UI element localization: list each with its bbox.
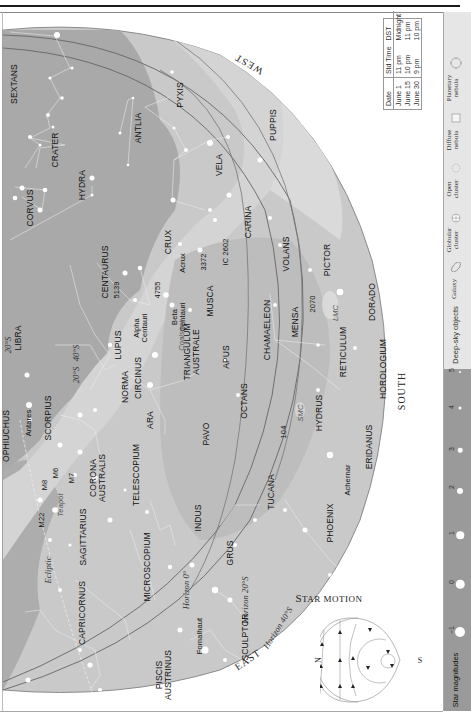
label-indus: INDUS xyxy=(194,505,203,532)
label-horologium: HOROLOGIUM xyxy=(379,339,388,399)
label-fomalhaut: Fomalhaut xyxy=(196,618,204,654)
label-pictor: PICTOR xyxy=(323,244,332,277)
label-ophiuchus: OPHIUCHUS xyxy=(2,410,11,462)
table-header-dst: DST xyxy=(384,11,394,43)
magnitude-dot-2 xyxy=(457,488,463,494)
legend-globular-cluster-label: Globularcluster xyxy=(446,228,461,253)
magnitude-dot-3 xyxy=(458,448,463,453)
label-mensa: MENSA xyxy=(291,307,300,338)
label-octans: OCTANS xyxy=(240,383,249,418)
magnitude-dot-0 xyxy=(456,580,465,589)
label-phoenix: PHOENIX xyxy=(326,504,335,543)
table-header-date: Date xyxy=(384,78,394,109)
magnitude-dot-4 xyxy=(459,407,462,410)
legend-magnitude-title: Star magnitudes xyxy=(452,653,460,708)
star-motion-diagram xyxy=(320,612,420,708)
label-ngc5139: 5139 xyxy=(113,281,121,298)
label-centaurus: CENTAURUS xyxy=(101,245,110,298)
magnitude-label-neg1: −1 xyxy=(448,626,455,634)
label-alpha-centauri: AlphaCentauri xyxy=(133,313,148,342)
label-dec-20s-b: 20°S xyxy=(72,367,81,384)
magnitude-label-5: 5 xyxy=(448,368,455,372)
star-motion-title: STAR MOTION xyxy=(295,592,362,604)
label-lmc: LMC xyxy=(332,305,340,321)
table-row: June 1 11 pm Midnight xyxy=(394,11,404,109)
label-achernar: Achernar xyxy=(344,464,352,495)
label-hydra: HYDRA xyxy=(78,170,87,200)
label-vela: VELA xyxy=(215,154,224,176)
label-tucana: TUCANA xyxy=(267,474,276,510)
magnitude-label-3: 3 xyxy=(448,447,455,451)
legend-diffuse-nebula-label: Diffusenebula xyxy=(446,130,461,151)
table-row: June 15 10 pm 11 pm xyxy=(403,11,412,109)
label-ngc4755: 4755 xyxy=(154,281,162,298)
label-m8: M8 xyxy=(41,480,49,491)
label-telescopium: TELESCOPIUM xyxy=(132,444,141,506)
label-acrux: Acrux xyxy=(179,253,187,273)
galaxy-ellipse-icon xyxy=(449,262,463,272)
label-dec-40s: 40°S xyxy=(72,345,81,362)
label-capricornus: CAPRICORNUS xyxy=(78,581,87,645)
label-dorado: DORADO xyxy=(368,283,377,321)
table-cell: 11 pm xyxy=(403,11,412,43)
table-cell: 10 pm xyxy=(403,43,412,77)
table-header-std-time: Std Time xyxy=(384,43,394,77)
legend-open-cluster-label: Opencluster xyxy=(446,180,461,199)
table-cell: June 1 xyxy=(394,78,404,109)
label-corvus: CORVUS xyxy=(26,190,35,227)
label-puppis: PUPPIS xyxy=(269,109,278,141)
label-pavo: PAVO xyxy=(202,423,211,446)
table-cell: June 30 xyxy=(412,78,421,109)
label-horizon-0: Horizon 0° xyxy=(182,571,191,610)
table-row: June 30 9 pm 10 pm xyxy=(412,11,421,109)
label-sextans: SEXTANS xyxy=(10,64,19,104)
label-sagittarius: SAGITTARIUS xyxy=(79,508,88,565)
label-m22: M22 xyxy=(38,513,46,528)
magnitude-label-1: 1 xyxy=(448,531,455,535)
globular-cluster-icon xyxy=(451,213,461,223)
label-ngc104: 104 xyxy=(280,426,288,439)
open-cluster-icon xyxy=(451,163,461,173)
label-teapot: Teapot xyxy=(57,493,65,516)
label-apus: APUS xyxy=(222,345,231,369)
magnitude-label-2: 2 xyxy=(448,485,455,489)
label-grus: GRUS xyxy=(226,541,235,566)
planetary-nebula-icon xyxy=(450,57,462,69)
magnitude-label-0: 0 xyxy=(448,580,455,584)
label-musca: MUSCA xyxy=(206,285,215,316)
label-pyxis: PYXIS xyxy=(176,82,185,108)
label-antares: Antares xyxy=(25,410,33,437)
magnitude-dot-neg1 xyxy=(455,627,465,637)
label-corona-australis: CORONAAUSTRALIS xyxy=(89,454,107,502)
label-chamaeleon: CHAMAELEON xyxy=(263,300,272,361)
table-cell: Midnight xyxy=(394,11,404,43)
label-volans: VOLANS xyxy=(282,236,291,271)
magnitude-label-4: 4 xyxy=(448,405,455,409)
label-m7: M7 xyxy=(68,473,76,484)
label-reticulum: RETICULUM xyxy=(339,327,348,378)
label-scorpius: SCORPIUS xyxy=(44,395,53,440)
label-ngc3372: 3372 xyxy=(200,253,208,270)
star-motion-north: N xyxy=(314,657,323,663)
viewing-times-table: Date Std Time DST June 1 11 pm Midnight … xyxy=(383,18,422,110)
table-cell: 11 pm xyxy=(394,43,404,77)
label-triangulum-australe: TRIANGULUMAUSTRALE xyxy=(183,323,201,380)
label-norma: NORMA xyxy=(121,371,130,403)
legend-deep-sky-title: Deep-sky objects xyxy=(452,306,460,364)
label-lupus: LUPUS xyxy=(114,331,123,360)
label-crux: CRUX xyxy=(164,230,173,255)
label-circinus: CIRCINUS xyxy=(134,357,143,399)
label-south: SOUTH xyxy=(397,372,407,410)
table-cell: 10 pm xyxy=(412,11,421,43)
label-ic2602: IC 2602 xyxy=(222,239,230,266)
label-smc: SMC xyxy=(297,405,305,422)
table-cell: 9 pm xyxy=(412,43,421,77)
legend-galaxy-label: Galaxy xyxy=(451,279,458,299)
label-ngc2070: 2070 xyxy=(309,295,317,312)
magnitude-dot-1 xyxy=(456,531,464,539)
diffuse-nebula-icon xyxy=(451,113,461,123)
label-antlia: ANTLIA xyxy=(134,113,143,143)
label-ara: ARA xyxy=(146,411,155,429)
label-ecliptic: Ecliptic xyxy=(44,556,53,583)
label-crater: CRATER xyxy=(51,133,60,168)
